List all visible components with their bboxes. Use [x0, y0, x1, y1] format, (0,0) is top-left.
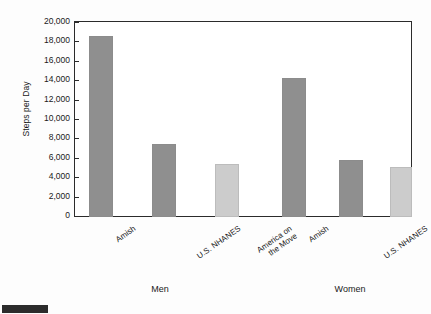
tick-mark	[75, 119, 79, 120]
figure-container: Steps per Day 20,000 18,000 16,000 14,00…	[0, 0, 431, 314]
tick-mark	[75, 158, 79, 159]
x-label-women-amish: Amish	[307, 224, 330, 244]
x-label-men-america-on-the-move: America on the Move	[255, 224, 298, 262]
y-tick-label: 12,000	[44, 94, 70, 104]
tick-mark	[75, 177, 79, 178]
y-tick-label: 2,000	[49, 191, 70, 201]
plot-frame: 20,000 18,000 16,000 14,000 12,000 10,00…	[74, 21, 412, 217]
y-tick-label: 16,000	[44, 55, 70, 65]
y-tick-label: 8,000	[49, 132, 70, 142]
tick-mark	[75, 216, 79, 217]
x-label-men-nhanes: U.S. NHANES	[195, 224, 242, 261]
x-label-line1: U.S. NHANES	[382, 224, 429, 261]
group-label-men: Men	[120, 284, 200, 294]
x-label-line1: Amish	[114, 224, 137, 244]
tick-mark	[75, 80, 79, 81]
tick-mark	[75, 197, 79, 198]
tick-mark	[75, 22, 79, 23]
y-tick-label: 10,000	[44, 113, 70, 123]
tick-mark	[75, 138, 79, 139]
x-label-men-amish: Amish	[114, 224, 137, 244]
y-tick-label: 0	[65, 210, 70, 220]
y-tick-label: 4,000	[49, 171, 70, 181]
x-label-women-nhanes: U.S. NHANES	[382, 224, 429, 261]
tick-mark	[75, 41, 79, 42]
figure-number-badge	[2, 305, 48, 313]
y-tick-label: 6,000	[49, 152, 70, 162]
tick-mark	[75, 61, 79, 62]
y-tick-label: 20,000	[44, 16, 70, 26]
y-axis-title: Steps per Day	[21, 49, 31, 169]
caption-strip	[0, 305, 431, 314]
x-label-line1: Amish	[307, 224, 330, 244]
group-label-women: Women	[310, 284, 390, 294]
y-tick-label: 14,000	[44, 74, 70, 84]
y-tick-label: 18,000	[44, 35, 70, 45]
x-label-line1: U.S. NHANES	[195, 224, 242, 261]
tick-mark	[75, 100, 79, 101]
